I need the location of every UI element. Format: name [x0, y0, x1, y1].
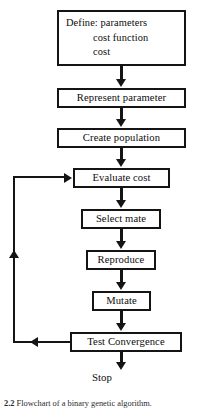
node-create-label: Create population: [83, 132, 160, 144]
connector-create-evaluate-arrow-icon: [116, 159, 126, 167]
connector-evaluate-select-arrow-icon: [116, 200, 126, 208]
node-test-convergence[interactable]: Test Convergence: [70, 332, 182, 352]
terminal-stop: Stop: [0, 371, 204, 383]
figure-caption-text: Flowchart of a binary genetic algorithm.: [17, 399, 152, 408]
node-reproduce[interactable]: Reproduce: [86, 250, 156, 270]
connector-define-represent-arrow-icon: [116, 79, 126, 87]
node-reproduce-label: Reproduce: [98, 254, 145, 266]
connector-select-reproduce-arrow-icon: [116, 241, 126, 249]
connector-test-stop-arrow-icon: [116, 362, 126, 370]
node-create-population[interactable]: Create population: [57, 128, 186, 148]
node-select-label: Select mate: [96, 213, 146, 225]
node-define-parameters[interactable]: Define: parameters cost function cost: [57, 10, 186, 66]
feedback-loop-up-arrow-icon: [9, 250, 19, 258]
node-evaluate-cost[interactable]: Evaluate cost: [73, 168, 170, 188]
figure-caption-number: 2.2: [4, 399, 14, 408]
feedback-loop-bottom-segment: [13, 341, 70, 343]
connector-mutate-test-arrow-icon: [116, 323, 126, 331]
connector-define-represent-line: [120, 66, 122, 80]
figure-caption: 2.2 Flowchart of a binary genetic algori…: [4, 399, 204, 409]
node-test-label: Test Convergence: [87, 336, 164, 348]
feedback-loop-left-arrow-icon: [30, 337, 38, 347]
node-mutate-label: Mutate: [106, 295, 137, 307]
node-mutate[interactable]: Mutate: [92, 291, 151, 311]
node-define-label: Define: parameters cost function cost: [66, 16, 148, 60]
feedback-loop-right-arrow-icon: [64, 173, 72, 183]
connector-reproduce-mutate-arrow-icon: [116, 282, 126, 290]
connector-represent-create-arrow-icon: [116, 119, 126, 127]
feedback-loop-vertical-segment: [13, 176, 15, 341]
flowchart-diagram: Define: parameters cost function cost Re…: [0, 0, 204, 409]
node-select-mate[interactable]: Select mate: [81, 209, 161, 229]
node-represent-label: Represent parameter: [77, 92, 166, 104]
feedback-loop-top-segment: [13, 176, 65, 178]
node-represent-parameter[interactable]: Represent parameter: [57, 88, 186, 108]
terminal-stop-label: Stop: [92, 371, 112, 383]
node-evaluate-label: Evaluate cost: [92, 172, 150, 184]
